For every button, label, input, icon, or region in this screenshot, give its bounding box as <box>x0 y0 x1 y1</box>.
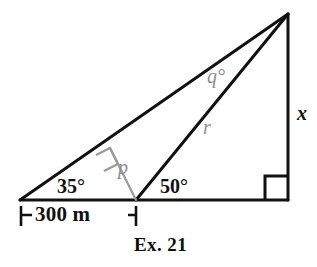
perpendicular-mark-icon <box>96 148 118 171</box>
figure-caption: Ex. 21 <box>134 235 187 254</box>
triangle-diagram <box>0 0 317 267</box>
exercise-figure: 35° 50° x q° r p 300 m Ex. 21 <box>0 0 317 267</box>
right-angle-mark-icon <box>265 176 288 200</box>
altitude-label-p: p <box>118 157 128 177</box>
angle-label-left: 35° <box>57 176 85 196</box>
height-label-x: x <box>297 103 307 123</box>
slant-segment-r <box>136 14 288 200</box>
slant-label-r: r <box>203 117 211 137</box>
angle-label-middle: 50° <box>160 176 188 196</box>
angle-label-q: q° <box>207 66 225 86</box>
base-dimension-label: 300 m <box>35 204 90 225</box>
upper-hypotenuse-segment <box>20 14 288 200</box>
